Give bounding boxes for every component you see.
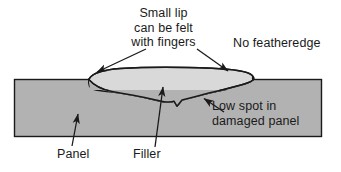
label-filler: Filler	[133, 147, 161, 162]
label-no-featheredge: No featheredge	[233, 36, 321, 51]
diagram-canvas: Small lip can be felt with fingers No fe…	[0, 0, 341, 172]
label-low-spot: Low spot in damaged panel	[212, 99, 299, 128]
label-panel: Panel	[57, 147, 89, 162]
